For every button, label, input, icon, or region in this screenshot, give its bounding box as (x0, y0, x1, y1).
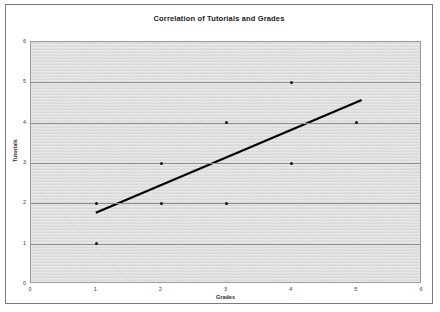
trendline (31, 42, 420, 282)
gridline-y-1 (31, 244, 420, 245)
x-tick-1: 1 (85, 286, 105, 292)
plot-area (30, 41, 421, 283)
data-point (290, 81, 293, 84)
x-tick-6: 6 (411, 286, 431, 292)
x-tick-3: 3 (216, 286, 236, 292)
x-tick-2: 2 (150, 286, 170, 292)
data-point (225, 202, 228, 205)
gridline-y-3 (31, 163, 420, 164)
data-point (95, 202, 98, 205)
gridline-y-5 (31, 82, 420, 83)
chart-frame: Correlation of Tutorials and Grades Tuto… (5, 4, 433, 304)
data-point (160, 202, 163, 205)
x-tick-5: 5 (346, 286, 366, 292)
data-point (95, 242, 98, 245)
x-tick-4: 4 (281, 286, 301, 292)
x-tick-0: 0 (20, 286, 40, 292)
data-point (160, 162, 163, 165)
data-point (290, 162, 293, 165)
